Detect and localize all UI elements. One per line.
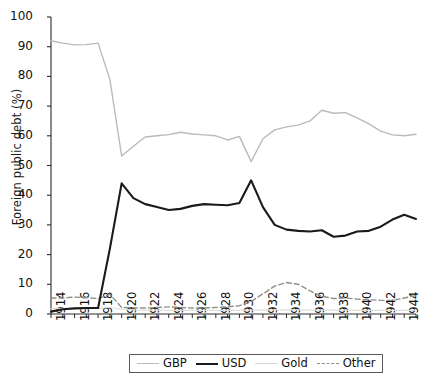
legend-item-gbp[interactable]: GBP xyxy=(137,358,187,370)
legend-label: GBP xyxy=(163,358,187,370)
series-line-usd xyxy=(51,180,416,311)
series-line-gbp xyxy=(51,41,416,162)
legend-item-gold[interactable]: Gold xyxy=(255,358,307,370)
series-line-other xyxy=(51,283,416,309)
plot-area xyxy=(0,0,440,381)
legend-label: USD xyxy=(222,358,247,370)
legend-item-usd[interactable]: USD xyxy=(196,358,247,370)
legend-label: Other xyxy=(343,358,376,370)
legend-item-other[interactable]: Other xyxy=(317,358,376,370)
legend-label: Gold xyxy=(281,358,307,370)
chart-container: Foreign public debt (%) 0102030405060708… xyxy=(0,0,440,381)
chart-legend: GBPUSDGoldOther xyxy=(129,354,383,373)
series-line-gold xyxy=(51,307,416,310)
